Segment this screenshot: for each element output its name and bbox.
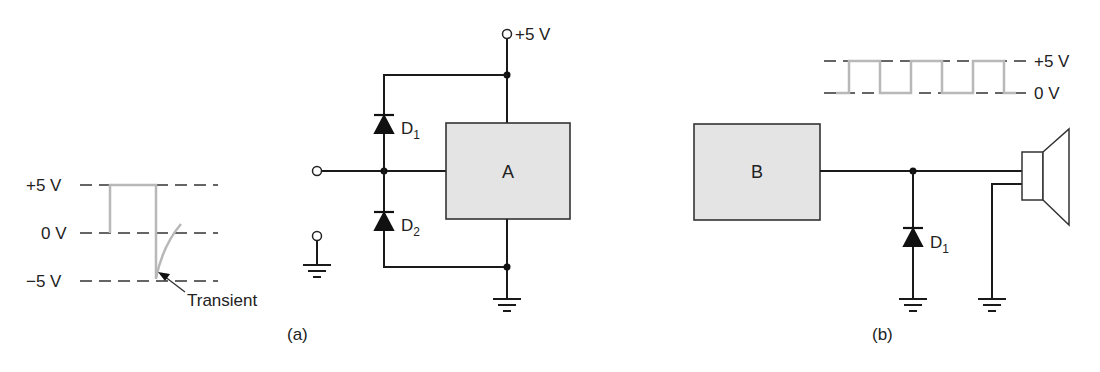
panel-b: +5 V 0 V B D1 (b) bbox=[694, 52, 1070, 344]
arrow-line bbox=[164, 276, 185, 292]
pulse-train-waveform: +5 V 0 V bbox=[824, 52, 1070, 103]
diode-icon bbox=[375, 213, 393, 230]
level-label-zero: 0 V bbox=[1034, 84, 1060, 103]
d1-label: D1 bbox=[401, 119, 420, 142]
circuit-diagram: +5 V 0 V −5 V Transient +5 V bbox=[0, 0, 1100, 372]
d1-label: D1 bbox=[930, 233, 949, 256]
caption-a: (a) bbox=[287, 325, 308, 344]
diode-d1: D1 bbox=[374, 115, 420, 142]
diode-d2: D2 bbox=[374, 212, 420, 239]
diode-icon bbox=[375, 116, 393, 133]
panel-a: +5 V 0 V −5 V Transient +5 V bbox=[26, 25, 570, 344]
speaker-return-wire bbox=[992, 184, 1022, 299]
square-pulse bbox=[110, 185, 156, 279]
transient-recovery-curve bbox=[156, 224, 181, 278]
level-label-plus5: +5 V bbox=[1034, 52, 1070, 71]
level-label-minus5: −5 V bbox=[26, 272, 62, 291]
level-label-zero: 0 V bbox=[41, 224, 67, 243]
diode-d1: D1 bbox=[903, 228, 949, 256]
ground-terminal bbox=[313, 232, 322, 241]
diode-icon bbox=[904, 229, 922, 246]
supply-terminal bbox=[503, 30, 512, 39]
caption-b: (b) bbox=[872, 325, 893, 344]
square-pulse-train bbox=[836, 61, 1016, 93]
supply-label: +5 V bbox=[515, 25, 551, 44]
ground-node bbox=[504, 264, 511, 271]
transient-label: Transient bbox=[187, 291, 258, 310]
input-terminal bbox=[313, 167, 322, 176]
transient-waveform: +5 V 0 V −5 V Transient bbox=[26, 176, 258, 310]
d2-label: D2 bbox=[401, 216, 420, 239]
block-b-label: B bbox=[751, 162, 763, 182]
block-a-label: A bbox=[502, 162, 514, 182]
speaker-icon bbox=[1022, 129, 1069, 225]
reference-ground bbox=[303, 232, 331, 278]
level-label-plus5: +5 V bbox=[26, 176, 62, 195]
